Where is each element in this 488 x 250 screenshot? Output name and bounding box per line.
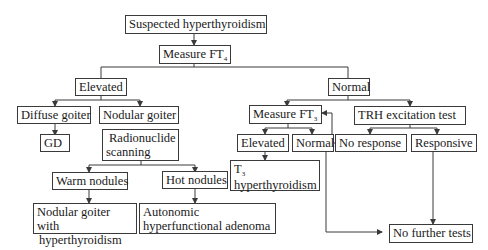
node-measure-ft3: Measure FT3 — [249, 105, 322, 124]
node-elevated-ft4: Elevated — [75, 78, 127, 96]
node-warm-nodules: Warm nodules — [52, 172, 128, 190]
node-autonomic-hyperfunctional-adenoma: Autonomic hyperfunctional adenoma — [139, 203, 276, 234]
node-label: GD — [44, 136, 62, 150]
node-nodular-goiter: Nodular goiter — [99, 106, 179, 124]
t3-prefix: T — [234, 162, 242, 176]
node-label: Diffuse goiter — [21, 108, 91, 122]
node-radionuclide-scanning: Radionuclide scanning — [102, 129, 179, 161]
node-responsive: Responsive — [411, 134, 477, 152]
flowchart-canvas: Suspected hyperthyroidism Measure FT4 El… — [0, 0, 488, 250]
node-trh-excitation-test: TRH excitation test — [354, 106, 466, 125]
node-label: Responsive — [415, 136, 473, 150]
node-label-line2: hyperthyroidism — [234, 178, 316, 192]
node-nodular-goiter-with-hyperthyroidism: Nodular goiter with hyperthyroidism — [33, 203, 137, 234]
edge-elevated-to-diffuse — [55, 95, 101, 106]
node-label: Nodular goiter — [103, 108, 176, 122]
subscript: 3 — [242, 170, 246, 178]
node-normal-ft3: Normal — [292, 134, 334, 152]
node-label-line1: T3 — [234, 162, 316, 178]
node-elevated-ft3: Elevated — [237, 134, 289, 152]
node-normal-ft4: Normal — [328, 78, 370, 96]
node-label-line1: Autonomic — [143, 205, 272, 219]
node-label: No further tests — [393, 226, 471, 240]
node-label: Normal — [332, 80, 370, 94]
node-label: Measure FT — [253, 107, 314, 121]
edge-ft4-to-normal — [194, 67, 348, 79]
node-no-further-tests: No further tests — [389, 224, 473, 243]
node-gd: GD — [40, 134, 70, 152]
node-label-line2: hyperthyroidism — [37, 233, 133, 247]
node-suspected-hyperthyroidism: Suspected hyperthyroidism — [125, 15, 267, 34]
node-label: Elevated — [79, 80, 123, 94]
node-label-line1: Nodular goiter with — [37, 205, 133, 233]
node-measure-ft4: Measure FT4 — [159, 45, 231, 64]
node-diffuse-goiter: Diffuse goiter — [17, 106, 91, 124]
subscript: 4 — [224, 55, 228, 63]
node-label: Elevated — [241, 136, 285, 150]
node-label-line1: Radionuclide — [106, 131, 175, 145]
node-label: Warm nodules — [56, 174, 128, 188]
subscript: 3 — [314, 115, 318, 123]
node-label: TRH excitation test — [358, 108, 456, 122]
node-label-line2: scanning — [106, 145, 175, 159]
node-label: Normal — [296, 136, 334, 150]
edge-ft4-split — [101, 63, 194, 79]
edge-normal-to-no-further — [326, 150, 382, 232]
node-label: Suspected hyperthyroidism — [129, 17, 265, 31]
node-t3-hyperthyroidism: T3 hyperthyroidism — [230, 160, 320, 191]
node-label: Hot nodules — [166, 173, 227, 187]
node-label: Measure FT — [163, 47, 224, 61]
node-label: No response — [339, 136, 401, 150]
node-hot-nodules: Hot nodules — [162, 171, 228, 189]
node-no-response: No response — [335, 134, 407, 152]
node-label-line2: hyperfunctional adenoma — [143, 219, 272, 233]
edge-ft3-to-elevated — [265, 123, 288, 134]
